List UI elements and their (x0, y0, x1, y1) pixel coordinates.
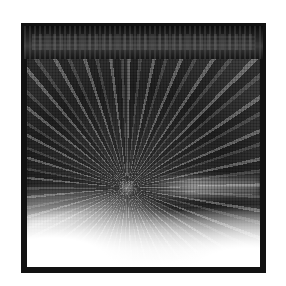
image-frame (21, 23, 266, 273)
radial-burst-photo (27, 59, 260, 267)
header-band (24, 26, 263, 59)
white-fade-bottom (27, 59, 260, 267)
illegible-header-text (32, 34, 255, 50)
